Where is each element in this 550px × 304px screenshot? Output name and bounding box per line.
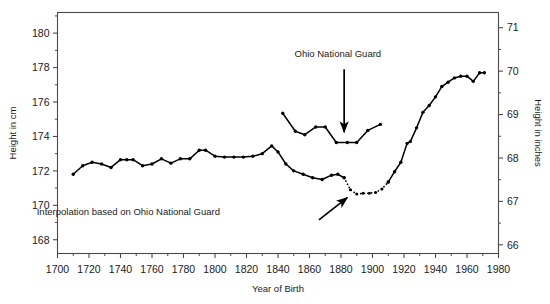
data-point-modern-height-series <box>478 71 481 74</box>
data-point-main-height-series <box>261 152 264 155</box>
data-point-main-height-series <box>131 158 134 161</box>
data-point-interpolation-dotted-segment <box>374 191 377 194</box>
series-line-modern-height-series <box>388 73 484 182</box>
data-point-interpolation-dotted-segment <box>380 187 383 190</box>
data-point-interpolation-dotted-segment <box>343 176 346 179</box>
data-point-main-height-series <box>284 162 287 165</box>
data-point-modern-height-series <box>405 142 408 145</box>
data-point-modern-height-series <box>409 140 412 143</box>
data-point-main-height-series <box>242 155 245 158</box>
x-tick-label: 1940 <box>424 263 448 275</box>
x-axis-title: Year of Birth <box>252 283 304 294</box>
data-point-ohio-national-guard-series <box>355 141 358 144</box>
data-point-modern-height-series <box>446 81 449 84</box>
data-point-modern-height-series <box>399 161 402 164</box>
data-point-ohio-national-guard-series <box>366 129 369 132</box>
data-point-modern-height-series <box>415 126 418 129</box>
data-point-main-height-series <box>81 164 84 167</box>
data-point-main-height-series <box>150 162 153 165</box>
data-point-ohio-national-guard-series <box>324 125 327 128</box>
y2-tick-label: 67 <box>507 195 519 207</box>
data-point-main-height-series <box>270 144 273 147</box>
data-point-modern-height-series <box>421 111 424 114</box>
data-point-main-height-series <box>188 157 191 160</box>
x-tick-label: 1780 <box>172 263 196 275</box>
data-point-ohio-national-guard-series <box>346 141 349 144</box>
x-tick-label: 1840 <box>266 263 290 275</box>
data-point-main-height-series <box>302 173 305 176</box>
y2-axis-title: Height in inches <box>533 99 544 167</box>
data-point-main-height-series <box>141 164 144 167</box>
data-point-main-height-series <box>213 155 216 158</box>
data-point-interpolation-dotted-segment <box>349 188 352 191</box>
y-tick-label: 168 <box>32 234 50 246</box>
data-point-modern-height-series <box>465 74 468 77</box>
data-point-modern-height-series <box>393 170 396 173</box>
y2-tick-label: 66 <box>507 239 519 251</box>
y2-tick-label: 69 <box>507 108 519 120</box>
ohio-national-guard-label: Ohio National Guard <box>295 48 382 59</box>
data-point-main-height-series <box>311 176 314 179</box>
data-point-modern-height-series <box>483 71 486 74</box>
data-point-main-height-series <box>330 173 333 176</box>
data-point-main-height-series <box>119 158 122 161</box>
data-point-modern-height-series <box>453 76 456 79</box>
x-tick-label: 1900 <box>361 263 385 275</box>
height-by-year-of-birth-line-chart: 168170172174176178180Height in cm6667686… <box>0 0 550 304</box>
series-line-interpolation-dotted-segment <box>344 178 388 194</box>
data-point-main-height-series <box>204 149 207 152</box>
x-tick-label: 1700 <box>46 263 70 275</box>
y-tick-label: 176 <box>32 96 50 108</box>
x-tick-label: 1760 <box>140 263 164 275</box>
data-point-main-height-series <box>160 157 163 160</box>
y-tick-label: 178 <box>32 61 50 73</box>
plot-frame <box>58 13 499 254</box>
data-point-main-height-series <box>232 155 235 158</box>
x-tick-label: 1860 <box>298 263 322 275</box>
y2-tick-label: 71 <box>507 21 519 33</box>
data-point-ohio-national-guard-series <box>281 112 284 115</box>
data-point-main-height-series <box>223 155 226 158</box>
data-point-main-height-series <box>169 161 172 164</box>
y2-tick-label: 70 <box>507 65 519 77</box>
data-point-ohio-national-guard-series <box>335 141 338 144</box>
data-point-modern-height-series <box>472 80 475 83</box>
data-point-main-height-series <box>292 169 295 172</box>
data-point-interpolation-dotted-segment <box>362 192 365 195</box>
data-point-ohio-national-guard-series <box>303 133 306 136</box>
y-tick-label: 180 <box>32 27 50 39</box>
x-tick-label: 1960 <box>455 263 479 275</box>
y-tick-label: 174 <box>32 130 50 142</box>
data-point-ohio-national-guard-series <box>379 123 382 126</box>
data-point-main-height-series <box>320 178 323 181</box>
x-tick-label: 1920 <box>392 263 416 275</box>
data-point-ohio-national-guard-series <box>314 125 317 128</box>
data-point-main-height-series <box>276 150 279 153</box>
data-point-main-height-series <box>198 149 201 152</box>
data-point-ohio-national-guard-series <box>294 130 297 133</box>
x-tick-label: 1800 <box>203 263 227 275</box>
data-point-main-height-series <box>251 155 254 158</box>
data-point-modern-height-series <box>428 104 431 107</box>
series-line-ohio-national-guard-series <box>283 113 381 142</box>
data-point-interpolation-dotted-segment <box>368 192 371 195</box>
chart-container: 168170172174176178180Height in cm6667686… <box>0 0 550 304</box>
y-tick-label: 172 <box>32 165 50 177</box>
data-point-main-height-series <box>100 162 103 165</box>
y2-tick-label: 68 <box>507 152 519 164</box>
y-axis-title: Height in cm <box>7 107 18 160</box>
x-tick-label: 1820 <box>235 263 259 275</box>
data-point-main-height-series <box>179 157 182 160</box>
data-point-main-height-series <box>72 173 75 176</box>
data-point-modern-height-series <box>440 85 443 88</box>
data-point-modern-height-series <box>387 180 390 183</box>
data-point-interpolation-dotted-segment <box>355 193 358 196</box>
data-point-main-height-series <box>90 161 93 164</box>
data-point-main-height-series <box>336 173 339 176</box>
x-tick-label: 1980 <box>487 263 511 275</box>
interpolation-label: Interpolation based on Ohio National Gua… <box>37 206 220 217</box>
data-point-modern-height-series <box>434 95 437 98</box>
data-point-main-height-series <box>125 158 128 161</box>
x-tick-label: 1720 <box>77 263 101 275</box>
x-tick-label: 1880 <box>329 263 353 275</box>
